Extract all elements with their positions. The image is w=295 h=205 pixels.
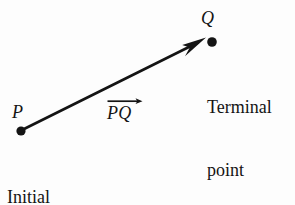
initial-point-dot: [16, 126, 25, 135]
point-label-q: Q: [201, 9, 214, 27]
terminal-point-caption: Terminal point: [207, 55, 272, 205]
vector-diagram: P Q Initial point Terminal point PQ: [0, 0, 295, 205]
point-label-p: P: [12, 103, 23, 121]
vector-arrowhead-icon: [182, 38, 206, 57]
terminal-point-dot: [207, 37, 217, 47]
initial-point-caption: Initial point: [7, 145, 50, 205]
terminal-point-caption-line1: Terminal: [207, 97, 272, 118]
terminal-point-caption-line2: point: [207, 160, 272, 181]
initial-point-caption-line1: Initial: [7, 187, 50, 205]
vector-label-text: PQ: [107, 103, 131, 124]
vector-label: PQ: [106, 97, 150, 125]
